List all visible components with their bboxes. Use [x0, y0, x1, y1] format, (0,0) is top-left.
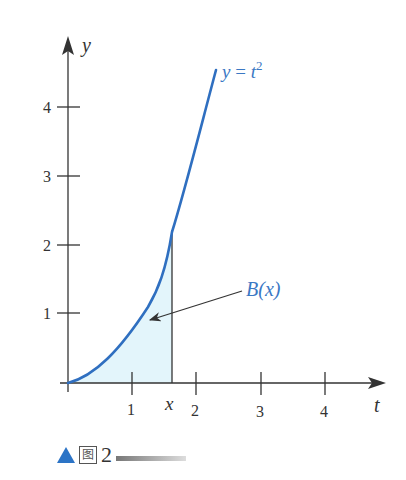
- x-tick-label-4: 4: [320, 403, 328, 420]
- y-tick-label-2: 2: [43, 237, 51, 254]
- curve-label: y = t2: [220, 58, 262, 82]
- caption-gradient-bar: [116, 456, 186, 461]
- y-tick-label-4: 4: [43, 99, 51, 116]
- curve-label-exp: 2: [256, 58, 263, 73]
- curve-label-eq: =: [230, 61, 250, 82]
- area-label: B(x): [246, 278, 281, 301]
- caption-triangle-icon: [57, 447, 75, 463]
- t-axis-label: t: [374, 394, 380, 416]
- y-tick-label-3: 3: [43, 168, 51, 185]
- figure-char: 图: [79, 446, 97, 464]
- figure-number: 2: [101, 444, 112, 466]
- figure-caption: 图 2: [57, 444, 186, 466]
- curve-label-y: y: [220, 61, 231, 82]
- x-tick-label-2: 2: [191, 402, 199, 419]
- x-tick-label-1: 1: [127, 401, 135, 418]
- y-tick-label-1: 1: [43, 305, 51, 322]
- x-marker-label: x: [164, 393, 174, 414]
- y-axis-label: y: [80, 34, 91, 57]
- shaded-area-b: [68, 232, 172, 383]
- figure-canvas: y t 1 2 3 4 1 x 2 3 4 y = t2 B(x): [0, 0, 406, 480]
- x-tick-label-3: 3: [256, 403, 264, 420]
